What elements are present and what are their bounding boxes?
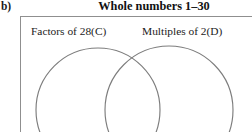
venn-circles <box>0 0 252 132</box>
venn-circle-set-d <box>105 46 233 132</box>
venn-diagram-figure: b) Whole numbers 1–30 Factors of 28(C) M… <box>0 0 252 132</box>
venn-circle-set-c <box>36 48 160 132</box>
